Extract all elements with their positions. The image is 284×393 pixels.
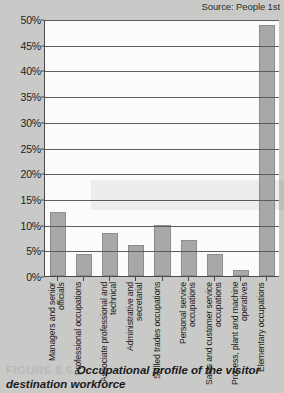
- gridline: [45, 200, 279, 201]
- bar: [76, 254, 92, 276]
- y-axis-tick-label: 50%: [21, 14, 41, 26]
- gridline: [45, 149, 279, 150]
- x-axis-tick-mark: [240, 277, 241, 281]
- bar: [154, 225, 170, 276]
- gridline: [45, 251, 279, 252]
- x-axis-tick-mark: [109, 277, 110, 281]
- y-axis-tick-label: 30%: [21, 117, 41, 129]
- y-axis-tick-label: 45%: [21, 40, 41, 52]
- y-axis-tick-mark: [41, 71, 44, 72]
- y-axis-tick-mark: [41, 122, 44, 123]
- y-axis-tick-mark: [41, 97, 44, 98]
- x-axis-tick-mark: [188, 277, 189, 281]
- bar: [50, 212, 66, 276]
- y-axis-tick-label: 0%: [26, 271, 41, 283]
- y-axis-tick-label: 20%: [21, 168, 41, 180]
- gridline: [45, 46, 279, 47]
- y-axis-tick-label: 10%: [21, 220, 41, 232]
- gridline: [45, 226, 279, 227]
- bar: [259, 25, 275, 276]
- gridline: [45, 174, 279, 175]
- y-axis-tick-label: 15%: [21, 194, 41, 206]
- bar: [102, 233, 118, 276]
- bar: [233, 270, 249, 276]
- x-axis-tick-mark: [135, 277, 136, 281]
- gridline: [45, 20, 279, 21]
- y-axis-tick-mark: [41, 20, 44, 21]
- x-axis-tick-mark: [57, 277, 58, 281]
- x-axis-tick-mark: [214, 277, 215, 281]
- x-axis-tick-mark: [266, 277, 267, 281]
- bar: [207, 254, 223, 276]
- y-axis-tick-mark: [41, 148, 44, 149]
- source-label: Source: People 1st: [202, 1, 280, 12]
- figure-number: FIGURE 8.6: [6, 364, 73, 376]
- y-axis-tick-label: 35%: [21, 91, 41, 103]
- figure-caption: FIGURE 8.6Occupational profile of the vi…: [6, 364, 282, 391]
- y-axis-tick-label: 25%: [21, 143, 41, 155]
- y-axis-tick-mark: [41, 277, 44, 278]
- y-axis-tick-mark: [41, 174, 44, 175]
- x-axis-tick-mark: [162, 277, 163, 281]
- gridline: [45, 123, 279, 124]
- y-axis-tick-label: 5%: [26, 245, 41, 257]
- gridline: [45, 71, 279, 72]
- y-axis-tick-mark: [41, 45, 44, 46]
- bar: [128, 245, 144, 276]
- chart-plot-area: [44, 20, 279, 277]
- bar: [181, 240, 197, 276]
- y-axis-tick-mark: [41, 225, 44, 226]
- figure-container: Source: People 1st 0%5%10%15%20%25%30%35…: [0, 0, 284, 393]
- gridline: [45, 97, 279, 98]
- y-axis-tick-mark: [41, 199, 44, 200]
- y-axis-tick-label: 40%: [21, 65, 41, 77]
- y-axis-tick-mark: [41, 251, 44, 252]
- x-axis-tick-mark: [83, 277, 84, 281]
